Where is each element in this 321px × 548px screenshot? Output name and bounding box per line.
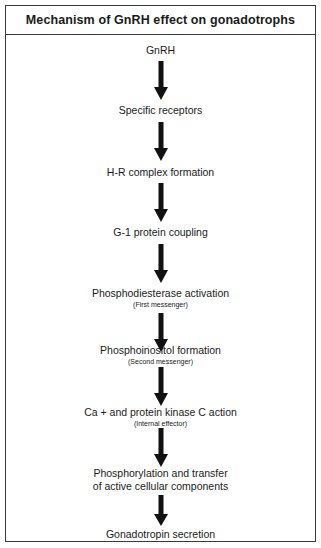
step-gnrh: GnRH (6, 44, 315, 57)
step-label: Ca + and protein kinase C action (6, 406, 315, 419)
step-label: Gonadotropin secretion (6, 528, 315, 541)
diagram-title: Mechanism of GnRH effect on gonadotrophs (26, 13, 295, 27)
arrow-down-icon (153, 428, 169, 468)
arrow-down-icon (153, 61, 169, 101)
step-label: Phosphodiesterase activation (6, 287, 315, 300)
step-sublabel: (Second messenger) (6, 357, 315, 366)
step-hr-complex-formation: H-R complex formation (6, 166, 315, 179)
step-g1-protein-coupling: G-1 protein coupling (6, 226, 315, 239)
arrow-down-icon (153, 367, 169, 407)
step-specific-receptors: Specific receptors (6, 104, 315, 117)
step-label: G-1 protein coupling (6, 226, 315, 239)
step-label: GnRH (6, 44, 315, 57)
step-label: H-R complex formation (6, 166, 315, 179)
step-label: Phosphoinositol formation (6, 344, 315, 357)
step-phosphoinositol-formation: Phosphoinositol formation (Second messen… (6, 344, 315, 366)
step-phosphorylation-and-transfer: Phosphorylation and transfer of active c… (6, 467, 315, 493)
step-gonadotropin-secretion: Gonadotropin secretion (6, 528, 315, 541)
arrow-down-icon (153, 183, 169, 223)
diagram-header: Mechanism of GnRH effect on gonadotrophs (6, 6, 315, 35)
step-ca-protein-kinase-c-action: Ca + and protein kinase C action (Intern… (6, 406, 315, 428)
step-phosphodiesterase-activation: Phosphodiesterase activation (First mess… (6, 287, 315, 309)
arrow-down-icon (153, 122, 169, 162)
arrow-down-icon (153, 495, 169, 527)
diagram-frame: Mechanism of GnRH effect on gonadotrophs… (5, 5, 316, 542)
step-label-line2: of active cellular components (6, 480, 315, 493)
step-label: Specific receptors (6, 104, 315, 117)
step-sublabel: (Internal effector) (6, 419, 315, 428)
step-sublabel: (First messenger) (6, 300, 315, 309)
step-label: Phosphorylation and transfer (6, 467, 315, 480)
arrow-down-icon (153, 244, 169, 284)
